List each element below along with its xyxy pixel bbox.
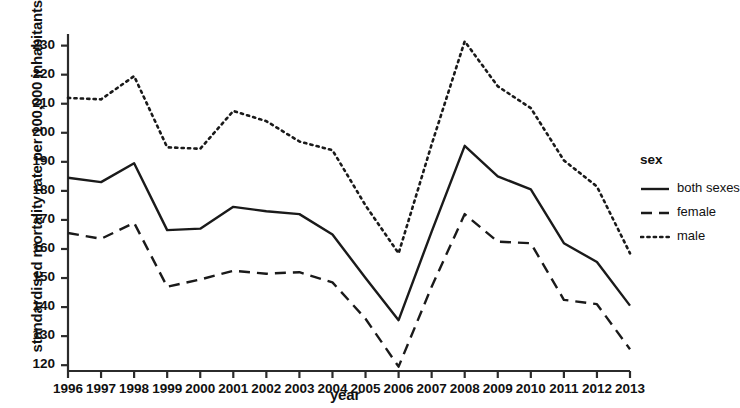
legend-label: both sexes <box>677 180 740 195</box>
legend-swatch-dashed <box>640 205 670 217</box>
legend-label: male <box>677 228 705 243</box>
legend-swatch-dotted <box>640 229 670 241</box>
y-axis-tick-label: 230 <box>15 37 55 52</box>
series-line-female <box>68 214 630 367</box>
legend-swatch-solid <box>640 181 670 193</box>
legend-entries: both sexesfemalemale <box>640 175 738 247</box>
y-axis-tick-label: 170 <box>15 211 55 226</box>
y-axis-tick-label: 130 <box>15 327 55 342</box>
legend-entry-female: female <box>640 199 738 223</box>
y-axis-tick-label: 120 <box>15 356 55 371</box>
y-axis-tick-label: 160 <box>15 240 55 255</box>
legend-title: sex <box>640 152 738 167</box>
y-axis-tick-label: 190 <box>15 153 55 168</box>
y-axis-tick-label: 210 <box>15 95 55 110</box>
legend: sex both sexesfemalemale <box>640 152 738 247</box>
data-series-group <box>68 41 630 366</box>
series-line-both-sexes <box>68 146 630 320</box>
legend-label: female <box>677 204 716 219</box>
legend-entry-male: male <box>640 223 738 247</box>
y-axis-tick-label: 140 <box>15 298 55 313</box>
legend-entry-both-sexes: both sexes <box>640 175 738 199</box>
y-axis-tick-label: 150 <box>15 269 55 284</box>
series-line-male <box>68 41 630 253</box>
x-axis-tick-label: 2013 <box>610 381 650 396</box>
y-axis-tick-label: 200 <box>15 124 55 139</box>
y-axis-tick-label: 180 <box>15 182 55 197</box>
y-axis-tick-label: 220 <box>15 66 55 81</box>
